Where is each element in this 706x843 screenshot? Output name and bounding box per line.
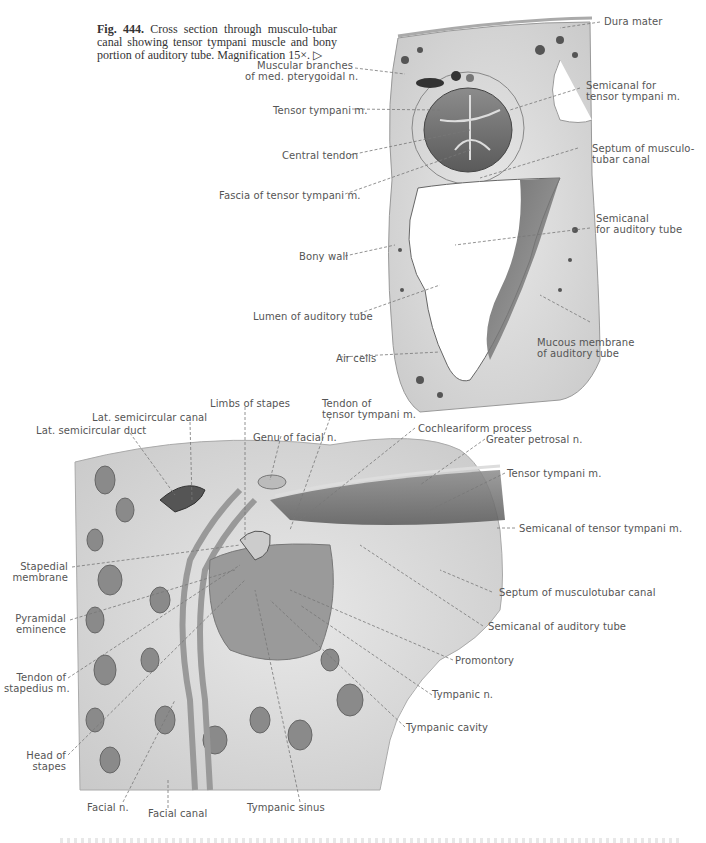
label-cochleariform-process: Cochleariform process [418, 423, 532, 434]
label-lumen: Lumen of auditory tube [253, 311, 373, 322]
label-dura-mater: Dura mater [604, 16, 663, 27]
label-genu-facial-n: Genu of facial n. [253, 432, 337, 443]
label-tympanic-cavity: Tympanic cavity [406, 722, 488, 733]
label-tympanic-sinus: Tympanic sinus [247, 802, 325, 813]
middle-ear-figure [75, 439, 505, 790]
label-tendon-stapedius: Tendon of stapedius m. [4, 672, 66, 694]
label-semicanal-auditory-tube-bottom: Semicanal of auditory tube [488, 621, 626, 632]
label-stapedial-membrane: Stapedial membrane [10, 561, 68, 583]
label-facial-n: Facial n. [87, 802, 129, 813]
label-tensor-tympani: Tensor tympani m. [273, 105, 368, 116]
label-semicanal-tensor-tympani-bottom: Semicanal of tensor tympani m. [519, 523, 682, 534]
clipped-caption-line [60, 838, 680, 843]
label-semicanal-auditory-tube: Semicanal for auditory tube [596, 213, 682, 235]
label-fascia: Fascia of tensor tympani m. [219, 190, 361, 201]
label-lat-semicircular-duct: Lat. semicircular duct [36, 425, 146, 436]
label-tympanic-n: Tympanic n. [432, 689, 493, 700]
label-tensor-tympani-bottom: Tensor tympani m. [507, 468, 602, 479]
label-head-of-stapes: Head of stapes [10, 750, 66, 772]
label-septum-musculotubar-bottom: Septum of musculotubar canal [499, 587, 656, 598]
label-greater-petrosal-n: Greater petrosal n. [486, 434, 582, 445]
label-lat-semicircular-canal: Lat. semicircular canal [92, 412, 207, 423]
label-air-cells: Air cells [336, 353, 376, 364]
label-muscular-branches: Muscular branches of med. pterygoidal n. [245, 60, 353, 82]
label-pyramidal-eminence: Pyramidal eminence [10, 613, 66, 635]
label-semicanal-tensor-tympani: Semicanal for tensor tympani m. [586, 80, 680, 102]
label-mucous-membrane: Mucous membrane of auditory tube [537, 337, 635, 359]
label-limbs-of-stapes: Limbs of stapes [210, 398, 290, 409]
label-bony-wall: Bony wall [299, 251, 348, 262]
label-facial-canal: Facial canal [148, 808, 207, 819]
label-tendon-tensor-tympani: Tendon of tensor tympani m. [322, 398, 416, 420]
label-promontory: Promontory [455, 655, 514, 666]
label-central-tendon: Central tendon [282, 150, 358, 161]
label-septum-musculotubar: Septum of musculo- tubar canal [592, 143, 694, 165]
